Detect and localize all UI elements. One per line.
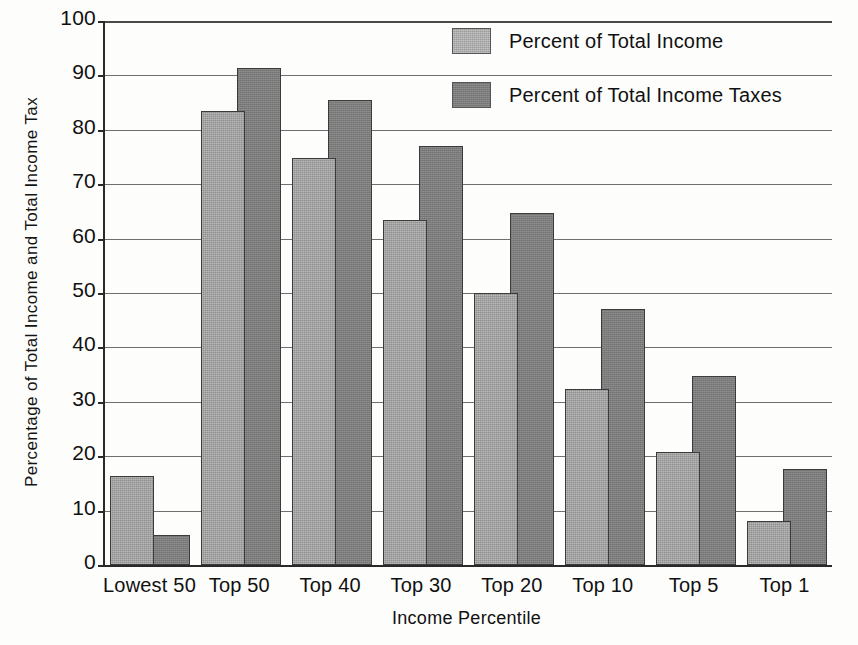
legend-swatch-income [452, 28, 491, 54]
bar-group [292, 21, 372, 565]
y-tick-label-80: 80 [26, 115, 96, 139]
y-tick-mark-90 [98, 75, 105, 77]
chart-legend: Percent of Total Income Percent of Total… [452, 28, 782, 136]
legend-label-income: Percent of Total Income [509, 30, 723, 53]
y-tick-label-30: 30 [26, 387, 96, 411]
bar-income [110, 476, 154, 565]
bar-income [474, 293, 518, 565]
x-tick-label: Top 1 [739, 574, 830, 597]
y-tick-mark-70 [98, 184, 105, 186]
x-tick-label: Top 5 [648, 574, 739, 597]
bar-group [110, 21, 190, 565]
bar-income [656, 452, 700, 565]
x-tick-label: Top 50 [194, 574, 285, 597]
y-tick-label-50: 50 [26, 278, 96, 302]
bar-chart: Percentage of Total Income and Total Inc… [0, 0, 858, 645]
x-tick-label: Top 40 [285, 574, 376, 597]
y-tick-mark-20 [98, 456, 105, 458]
legend-entry-income: Percent of Total Income [452, 28, 782, 54]
y-tick-label-100: 100 [26, 6, 96, 30]
bar-income [565, 389, 609, 565]
bar-income [383, 220, 427, 565]
y-tick-label-90: 90 [26, 60, 96, 84]
x-axis-title: Income Percentile [103, 608, 830, 629]
bar-income [747, 521, 791, 565]
y-tick-mark-60 [98, 239, 105, 241]
y-tick-label-20: 20 [26, 441, 96, 465]
x-tick-label: Top 10 [557, 574, 648, 597]
y-tick-mark-10 [98, 511, 105, 513]
bar-group [201, 21, 281, 565]
y-tick-label-0: 0 [26, 550, 96, 574]
y-tick-mark-30 [98, 402, 105, 404]
bar-income [292, 158, 336, 565]
legend-entry-taxes: Percent of Total Income Taxes [452, 82, 782, 108]
y-tick-mark-100 [98, 21, 105, 23]
y-tick-mark-80 [98, 130, 105, 132]
x-tick-label: Lowest 50 [103, 574, 194, 597]
y-tick-label-70: 70 [26, 169, 96, 193]
y-tick-label-40: 40 [26, 332, 96, 356]
x-tick-label: Top 20 [467, 574, 558, 597]
y-tick-label-60: 60 [26, 223, 96, 247]
y-tick-label-10: 10 [26, 495, 96, 519]
bar-income [201, 111, 245, 565]
legend-label-taxes: Percent of Total Income Taxes [509, 84, 782, 107]
x-tick-label: Top 30 [376, 574, 467, 597]
y-tick-mark-0 [98, 565, 105, 567]
legend-swatch-taxes [452, 82, 491, 108]
y-tick-mark-40 [98, 347, 105, 349]
y-tick-mark-50 [98, 293, 105, 295]
